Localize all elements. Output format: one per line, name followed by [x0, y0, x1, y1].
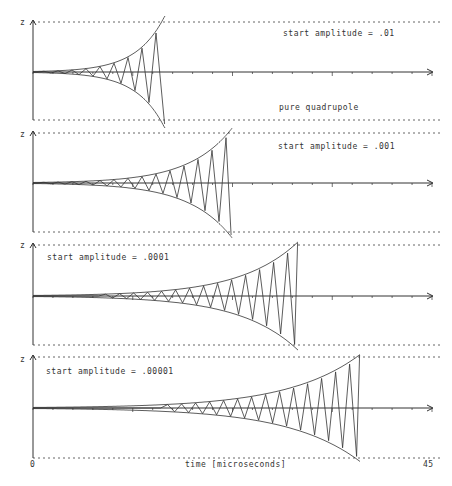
lower-envelope-curve: [33, 409, 360, 462]
z-axis-label-2: z: [20, 130, 25, 139]
panel-3-label: start amplitude = .0001: [47, 253, 169, 262]
z-axis-label-3: z: [20, 241, 25, 250]
x-axis-max-label: 45: [423, 460, 434, 469]
z-axis-label-1: z: [20, 18, 25, 27]
panel-1-extra-label: pure quadrupole: [279, 103, 359, 112]
panel-1-label: start amplitude = .01: [283, 29, 395, 38]
upper-envelope-curve: [33, 16, 165, 72]
z-axis-label-4: z: [20, 355, 25, 364]
x-axis-title: time [microseconds]: [185, 460, 286, 469]
lower-envelope-curve: [33, 297, 298, 351]
panel-4-label: start amplitude = .00001: [46, 367, 174, 376]
upper-envelope-curve: [33, 242, 298, 296]
chart-canvas: [0, 0, 452, 486]
panel-2-label: start amplitude = .001: [278, 142, 395, 151]
oscillation-trace: [33, 138, 231, 235]
x-axis-min-label: 0: [30, 460, 35, 469]
oscillation-trace: [33, 33, 165, 124]
upper-envelope-curve: [33, 128, 232, 182]
upper-envelope-curve: [33, 355, 360, 408]
